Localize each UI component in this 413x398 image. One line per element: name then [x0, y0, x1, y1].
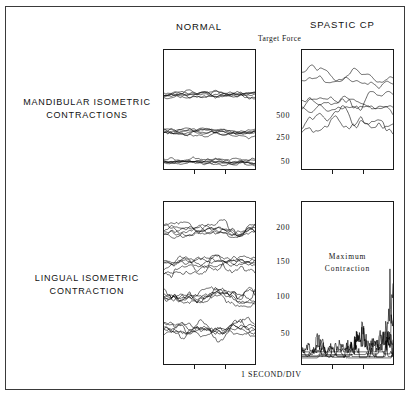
column-header-spastic: SPASTIC CP — [310, 19, 375, 30]
y-axis-tick-label: 100 — [276, 292, 290, 301]
trace-line — [302, 65, 393, 82]
panel-lingual-spastic — [301, 201, 394, 365]
y-axis-tick-label: 200 — [276, 223, 290, 232]
annotation-line1: Maximum — [329, 252, 367, 261]
annotation-line2: Contraction — [325, 264, 370, 273]
y-axis-tick-label: 150 — [276, 257, 290, 266]
trace-line — [302, 106, 393, 134]
x-axis-caption: 1 SECOND/DIV — [241, 370, 301, 379]
y-axis-tick-label: 50 — [281, 329, 290, 338]
figure-root: NORMAL SPASTIC CP Target Force MANDIBULA… — [0, 0, 413, 398]
y-axis-labels-lingual: 20015010050 — [0, 0, 290, 398]
maximum-contraction-annotation: Maximum Contraction — [301, 251, 394, 275]
trace-line — [302, 116, 393, 132]
trace-group — [302, 202, 393, 364]
panel-mandibular-spastic — [301, 49, 394, 170]
trace-group — [302, 50, 393, 169]
